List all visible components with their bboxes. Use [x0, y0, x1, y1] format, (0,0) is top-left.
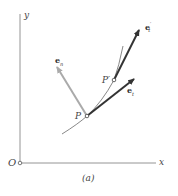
- y-axis-label: y: [24, 11, 29, 20]
- point-p-label: P: [75, 112, 81, 121]
- origin-point: [18, 161, 22, 165]
- point-p: [85, 114, 89, 118]
- et-prime-label: e′t: [145, 22, 150, 33]
- en-label: en: [55, 56, 63, 67]
- tangent-vector-et-prime: [114, 30, 139, 80]
- x-axis-label: x: [159, 158, 164, 167]
- et-label: et: [127, 86, 134, 97]
- normal-vector-en: [57, 67, 87, 116]
- point-p-prime: [112, 78, 116, 82]
- point-p-prime-label: P′: [102, 76, 110, 85]
- figure-caption: (a): [82, 174, 94, 183]
- diagram-canvas: [0, 0, 178, 196]
- figure: y x O P P′ en et e′t (a): [0, 0, 178, 196]
- origin-label: O: [8, 158, 16, 168]
